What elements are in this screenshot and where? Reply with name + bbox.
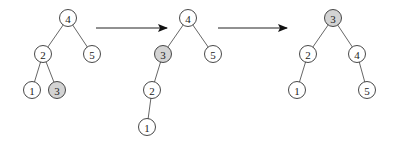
node-label: 3 [54,85,60,97]
node-label: 1 [294,85,300,97]
node-label: 2 [149,85,155,97]
edges-layer [32,18,367,127]
tree-node-4: 4 [180,10,197,27]
node-label: 3 [330,13,336,25]
node-label: 3 [160,49,166,61]
tree-node-5: 5 [359,82,376,99]
tree-node-1: 1 [139,119,156,136]
node-label: 4 [185,13,191,25]
tree-node-1: 1 [289,82,306,99]
node-label: 2 [40,49,46,61]
nodes-layer: 425134352132415 [24,10,376,136]
tree-node-5: 5 [84,46,101,63]
tree-node-2: 2 [35,46,52,63]
tree-node-3: 3 [325,10,342,27]
node-label: 4 [65,13,71,25]
node-label: 1 [29,85,35,97]
node-label: 2 [305,49,311,61]
tree-node-2: 2 [300,46,317,63]
tree-node-2: 2 [144,82,161,99]
rotation-diagram: 425134352132415 [0,0,395,144]
node-label: 1 [144,122,150,134]
tree-node-3: 3 [49,82,66,99]
tree-node-4: 4 [349,46,366,63]
tree-node-1: 1 [24,82,41,99]
tree-node-5: 5 [205,46,222,63]
node-label: 5 [210,49,216,61]
tree-node-3: 3 [155,46,172,63]
node-label: 5 [364,85,370,97]
tree-node-4: 4 [60,10,77,27]
node-label: 5 [89,49,95,61]
node-label: 4 [354,49,360,61]
